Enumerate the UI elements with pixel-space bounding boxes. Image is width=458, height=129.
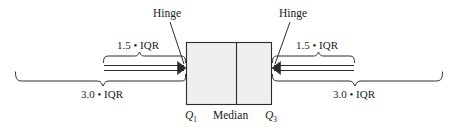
whisker-left-arrowhead [178,62,187,75]
hinge-right-leader-line [275,22,290,64]
brace-outer-left [16,72,186,86]
outer-fence-left-label: 3.0 • IQR [81,89,123,100]
q3-label-subscript: 3 [273,115,277,124]
hinge-left-leader-line [170,22,184,64]
brace-outer-right [273,72,443,86]
q1-label: Q1 [185,110,197,124]
brace-inner-right [273,52,355,63]
hinge-right-label: Hinge [279,8,307,20]
brace-inner-left [104,52,186,63]
inner-fence-left-label: 1.5 • IQR [117,40,159,51]
boxplot-box [187,43,272,105]
boxplot-fence-diagram: Hinge Hinge 1.5 • IQR 1.5 • IQR 3.0 • IQ… [0,0,458,129]
median-label: Median [213,110,248,122]
q1-label-subscript: 1 [193,115,197,124]
q3-label: Q3 [265,110,277,124]
outer-fence-right-label: 3.0 • IQR [333,89,375,100]
whisker-right-arrowhead [272,62,281,75]
inner-fence-right-label: 1.5 • IQR [296,40,338,51]
hinge-left-label: Hinge [153,8,181,20]
